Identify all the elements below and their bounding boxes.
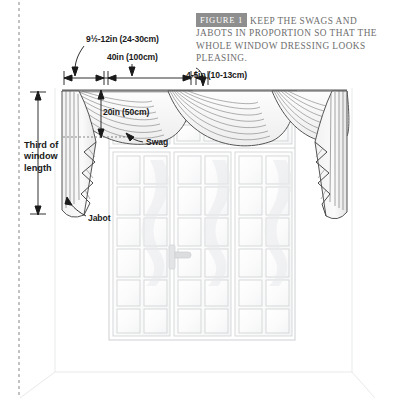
label-jabot-width: 9½-12in (24-30cm) xyxy=(86,34,159,44)
label-jabot: Jabot xyxy=(88,213,110,223)
label-swag: Swag xyxy=(146,137,168,147)
label-window-third: Third of window length xyxy=(24,140,68,174)
figure-caption: FIGURE 1Keep the swags and jabots in pro… xyxy=(196,13,392,64)
door-leaves xyxy=(113,152,292,336)
label-overlap: 4-5in (10-13cm) xyxy=(186,70,247,80)
figure-illustration: FIGURE 1Keep the swags and jabots in pro… xyxy=(0,0,395,400)
label-swag-drop: 20in (50cm) xyxy=(103,107,149,117)
figure-badge: FIGURE 1 xyxy=(196,13,247,27)
french-doors xyxy=(109,118,295,340)
label-swag-width: 40in (100cm) xyxy=(107,52,158,62)
